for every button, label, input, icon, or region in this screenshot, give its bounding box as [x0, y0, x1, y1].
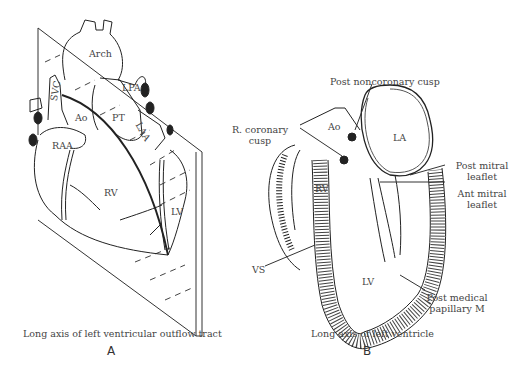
label-ao: Ao: [75, 112, 88, 123]
label-post-noncoronary-cusp: Post noncoronary cusp: [330, 76, 440, 87]
label-ant-mitral-leaflet-line1: Ant mitral: [453, 188, 511, 199]
label-r-coronary-cusp: R. coronary cusp: [225, 124, 295, 146]
label-post-mitral-leaflet: Post mitral leaflet: [450, 160, 514, 182]
label-lpa: LPA: [122, 82, 141, 93]
label-lv: LV: [171, 206, 183, 217]
caption-b: Long axis of left ventricle: [311, 328, 434, 339]
label-rv-b: RV: [315, 183, 329, 194]
label-ant-mitral-leaflet: Ant mitral leaflet: [453, 188, 511, 210]
label-arch: Arch: [89, 48, 112, 59]
label-post-medical-papillary-line1: Post medical: [424, 292, 490, 303]
label-pt: PT: [112, 112, 125, 123]
label-r-coronary-cusp-line1: R. coronary: [225, 124, 295, 135]
label-ant-mitral-leaflet-line2: leaflet: [453, 199, 511, 210]
label-raa: RAA: [52, 140, 73, 151]
label-vs: VS: [252, 264, 265, 275]
label-rv: RV: [104, 187, 118, 198]
panel-a-drawing: [29, 20, 202, 336]
panel-letter-b: B: [363, 344, 371, 358]
panel-letter-a: A: [107, 344, 115, 358]
label-la: LA: [393, 132, 406, 143]
label-r-coronary-cusp-line2: cusp: [225, 135, 295, 146]
label-post-mitral-leaflet-line2: leaflet: [450, 171, 514, 182]
label-lv-b: LV: [362, 276, 374, 287]
heart-diagram: [0, 0, 528, 377]
label-post-medical-papillary: Post medical papillary M: [424, 292, 490, 314]
label-post-mitral-leaflet-line1: Post mitral: [450, 160, 514, 171]
caption-a: Long axis of left ventricular outflow tr…: [23, 328, 222, 339]
label-ao-b: Ao: [328, 121, 341, 132]
label-post-medical-papillary-line2: papillary M: [424, 303, 490, 314]
